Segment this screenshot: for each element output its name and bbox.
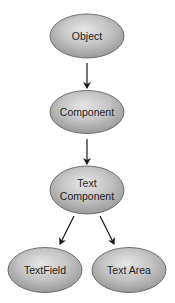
node-component: Component (50, 91, 124, 134)
node-text-component-label-line2: Component (60, 190, 114, 202)
node-component-label: Component (60, 106, 114, 118)
arrow-text-component-to-textfield (60, 216, 74, 244)
class-hierarchy-diagram: Object Component Text Component TextFiel… (0, 0, 175, 303)
node-textarea: Text Area (92, 248, 166, 293)
node-textfield: TextField (8, 248, 82, 293)
node-text-component: Text Component (50, 166, 124, 214)
node-object: Object (50, 14, 124, 58)
node-text-component-label-line1: Text (77, 177, 96, 189)
node-textarea-label: Text Area (107, 264, 151, 276)
node-object-label: Object (72, 30, 102, 42)
node-textfield-label: TextField (24, 264, 66, 276)
arrow-text-component-to-textarea (100, 216, 114, 244)
